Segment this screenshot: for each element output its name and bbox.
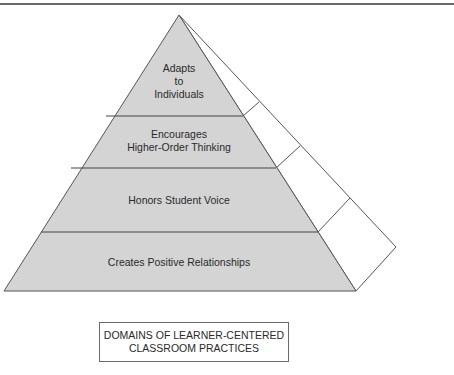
level-1-line-2: to: [129, 75, 229, 88]
level-1-label: Adapts to Individuals: [129, 62, 229, 101]
level-3-line-1: Honors Student Voice: [79, 194, 279, 207]
level-1-line-3: Individuals: [129, 88, 229, 101]
caption-line-2: CLASSROOM PRACTICES: [129, 342, 259, 355]
diagram-caption-box: DOMAINS OF LEARNER-CENTERED CLASSROOM PR…: [99, 322, 289, 362]
level-2-label: Encourages Higher-Order Thinking: [99, 128, 259, 154]
level-2-line-1: Encourages: [99, 128, 259, 141]
level-4-label: Creates Positive Relationships: [59, 256, 299, 269]
pyramid-graphic: [0, 0, 454, 375]
caption-line-1: DOMAINS OF LEARNER-CENTERED: [104, 329, 284, 342]
level-3-label: Honors Student Voice: [79, 194, 279, 207]
level-1-line-1: Adapts: [129, 62, 229, 75]
level-4-line-1: Creates Positive Relationships: [59, 256, 299, 269]
level-2-line-2: Higher-Order Thinking: [99, 141, 259, 154]
